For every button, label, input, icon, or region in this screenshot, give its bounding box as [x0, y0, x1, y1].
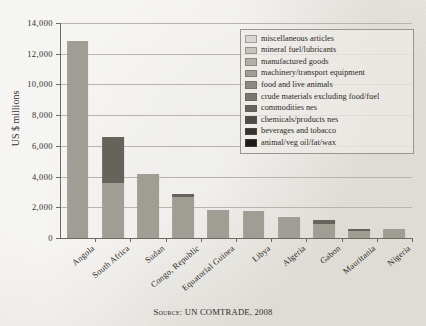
- x-axis-tick-mark: [342, 238, 343, 242]
- bar-segment: [383, 229, 405, 238]
- x-axis-tick-mark: [236, 238, 237, 242]
- bar[interactable]: [383, 229, 405, 238]
- source-caption: Source: UN COMTRADE, 2008: [0, 307, 426, 317]
- bar[interactable]: [348, 229, 370, 238]
- x-axis-tick-mark: [166, 238, 167, 242]
- bar-segment: [348, 231, 370, 238]
- legend-label: commodities nes: [261, 104, 317, 112]
- legend-label: mineral fuel/lubricants: [261, 46, 336, 54]
- bar-segment: [243, 211, 265, 238]
- legend-swatch: [245, 35, 257, 43]
- bar[interactable]: [67, 41, 89, 238]
- x-axis-tick-mark: [95, 238, 96, 242]
- legend-label: beverages and tobacco: [261, 127, 336, 135]
- legend-swatch: [245, 139, 257, 147]
- legend-swatch: [245, 58, 257, 66]
- bar[interactable]: [172, 194, 194, 238]
- legend-label: food and live animals: [261, 81, 333, 89]
- legend-swatch: [245, 70, 257, 78]
- x-axis-tick-label: South Africa: [90, 243, 131, 280]
- legend-label: animal/veg oil/fat/wax: [261, 139, 336, 147]
- y-axis-tick-label: 14,000: [27, 18, 53, 28]
- bar[interactable]: [207, 210, 229, 238]
- bar[interactable]: [243, 211, 265, 238]
- y-axis-tick-label: 12,000: [27, 49, 53, 59]
- legend-swatch: [245, 81, 257, 89]
- x-axis-tick-label: Angola: [69, 243, 96, 268]
- legend-swatch: [245, 47, 257, 55]
- legend-item[interactable]: crude materials excluding food/fuel: [245, 91, 409, 103]
- legend-item[interactable]: chemicals/products nes: [245, 114, 409, 126]
- legend-label: crude materials excluding food/fuel: [261, 93, 379, 101]
- legend-swatch: [245, 116, 257, 124]
- legend-item[interactable]: manufactured goods: [245, 56, 409, 68]
- x-axis-tick-label: Nigeria: [386, 243, 413, 268]
- y-axis-tick-label: 2,000: [32, 202, 53, 212]
- bar[interactable]: [137, 174, 159, 238]
- legend-item[interactable]: machinery/transport equipment: [245, 68, 409, 80]
- legend-item[interactable]: animal/veg oil/fat/wax: [245, 137, 409, 149]
- legend-item[interactable]: beverages and tobacco: [245, 126, 409, 138]
- x-axis-tick-mark: [306, 238, 307, 242]
- y-axis-title-wrap: US $ millions: [2, 23, 18, 238]
- legend-item[interactable]: commodities nes: [245, 103, 409, 115]
- x-axis-tick-mark: [130, 238, 131, 242]
- legend-label: machinery/transport equipment: [261, 69, 365, 77]
- x-axis-tick-label: Gabon: [318, 243, 343, 266]
- bar-segment: [207, 210, 229, 238]
- x-axis-tick-mark: [412, 238, 413, 242]
- legend-label: manufactured goods: [261, 58, 329, 66]
- y-axis-tick-label: 6,000: [32, 141, 53, 151]
- x-axis-tick-label: Mauritania: [341, 243, 378, 276]
- y-axis-tick-label: 4,000: [32, 172, 53, 182]
- legend-item[interactable]: mineral fuel/lubricants: [245, 45, 409, 57]
- legend-label: miscellaneous articles: [261, 35, 334, 43]
- bar-segment: [278, 217, 300, 238]
- bar-segment: [102, 137, 124, 183]
- y-axis-tick-mark: [56, 238, 60, 239]
- legend-label: chemicals/products nes: [261, 116, 338, 124]
- legend-item[interactable]: miscellaneous articles: [245, 33, 409, 45]
- bar-slot: [130, 23, 165, 238]
- x-axis-tick-label: Algeria: [280, 243, 307, 268]
- x-axis-tick-mark: [271, 238, 272, 242]
- x-axis-tick-label: Libya: [250, 243, 272, 264]
- bar-segment: [67, 41, 89, 238]
- legend-item[interactable]: food and live animals: [245, 79, 409, 91]
- bar-slot: [166, 23, 201, 238]
- bar[interactable]: [313, 220, 335, 238]
- bar-segment: [172, 197, 194, 238]
- legend-swatch: [245, 128, 257, 136]
- bar-slot: [201, 23, 236, 238]
- y-axis-title: US $ millions: [10, 44, 21, 194]
- bar-segment: [313, 224, 335, 238]
- legend-swatch: [245, 105, 257, 113]
- x-axis-tick-mark: [201, 238, 202, 242]
- bar[interactable]: [102, 137, 124, 238]
- x-axis-tick-label: Sudan: [143, 243, 166, 265]
- bar-slot: [95, 23, 130, 238]
- y-axis-tick-label: 8,000: [32, 110, 53, 120]
- y-axis-tick-label: 10,000: [27, 79, 53, 89]
- bar-segment: [137, 174, 159, 238]
- x-axis-tick-mark: [377, 238, 378, 242]
- legend-swatch: [245, 93, 257, 101]
- bar[interactable]: [278, 217, 300, 238]
- chart-figure: US $ millions 02,0004,0006,0008,00010,00…: [0, 0, 426, 326]
- bar-slot: [60, 23, 95, 238]
- bar-segment: [102, 183, 124, 238]
- y-axis-tick-label: 0: [48, 233, 53, 243]
- chart-legend: miscellaneous articlesmineral fuel/lubri…: [240, 29, 414, 154]
